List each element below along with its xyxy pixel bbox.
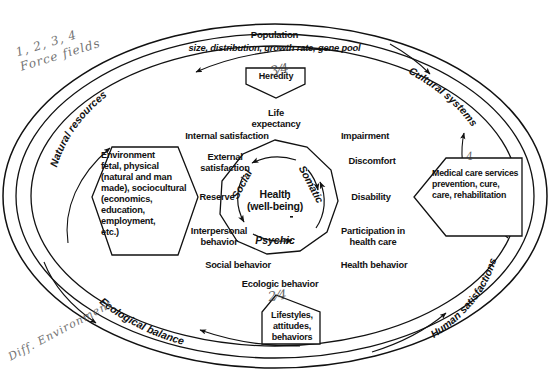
ring-label-cultural-systems: Cultural systems: [407, 64, 480, 128]
scribble-medical: 4: [465, 150, 473, 164]
outcome-discomfort: Discomfort: [330, 156, 414, 166]
health-label-line2: (well-being): [225, 201, 325, 213]
outcome-impairment: Impairment: [322, 131, 408, 141]
lifestyles-label: Lifestyles, attitudes, behaviors: [252, 310, 332, 342]
medical-care-label: Medical care services prevention, cure, …: [432, 168, 536, 201]
scribble-lifestyles: 2⁄4: [267, 287, 288, 304]
outcome-reserve: Reserve: [186, 192, 248, 202]
outcome-social-behavior: Social behavior: [186, 260, 290, 270]
ring-label-human-satisfactions: Human satisfactions: [428, 256, 498, 339]
outcome-internal-satisfaction: Internal satisfaction: [172, 131, 282, 141]
outcome-health-behavior: Health behavior: [324, 260, 424, 270]
life-expectancy-label: Life expectancy: [240, 108, 312, 129]
diagram-canvas: Natural resources Cultural systems Ecolo…: [0, 0, 549, 390]
outcome-external-satisfaction: External satisfaction: [186, 152, 264, 174]
outcome-participation-in-health-care: Participation in health care: [326, 226, 420, 248]
outcome-disability: Disability: [336, 192, 406, 202]
outcome-interpersonal-behavior: Interpersonal behavior: [176, 226, 262, 248]
